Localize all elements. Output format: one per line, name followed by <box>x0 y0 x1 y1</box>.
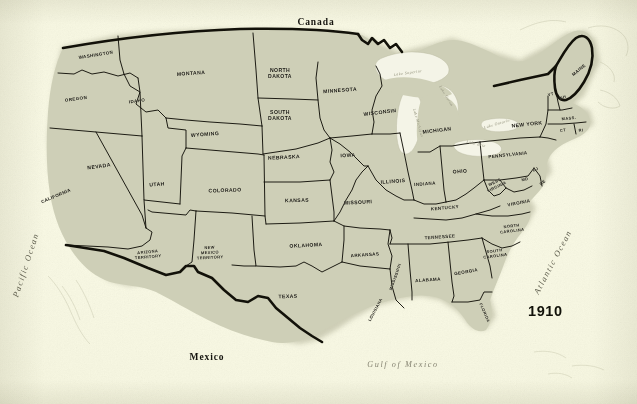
state-label-ohio: OHIO <box>452 167 467 174</box>
landmass-group <box>47 29 600 344</box>
state-label-texas: TEXAS <box>278 293 297 300</box>
ocean-label-gulf-of-mexico: Gulf of Mexico <box>367 360 439 369</box>
caribbean-islands <box>534 351 604 378</box>
state-label-new-mexico-territory: NEWMEXICOTERRITORY <box>196 245 223 261</box>
state-label-kansas: KANSAS <box>285 197 309 204</box>
nova-scotia <box>598 90 620 108</box>
state-label-ct: CT <box>560 128 567 133</box>
mexico-river-2 <box>76 280 94 318</box>
map-year-label: 1910 <box>528 303 563 319</box>
baja-outline <box>48 276 90 344</box>
state-label-ri: RI <box>578 128 583 133</box>
us-landmass <box>47 29 596 343</box>
map-figure: WASHINGTONOREGONIDAHOMONTANANORTHDAKOTAS… <box>0 0 637 404</box>
country-label-mexico: Mexico <box>190 352 225 362</box>
state-label-south-dakota: SOUTHDAKOTA <box>268 109 292 121</box>
state-label-iowa: IOWA <box>340 152 355 159</box>
country-label-canada: Canada <box>297 17 334 27</box>
us-map-graphic <box>0 0 637 404</box>
mexico-river-1 <box>62 286 80 320</box>
state-label-colorado: COLORADO <box>208 186 241 193</box>
state-label-north-dakota: NORTHDAKOTA <box>268 67 292 79</box>
